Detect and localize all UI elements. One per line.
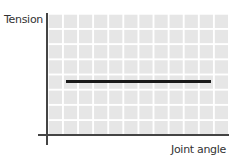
x-axis-label: Joint angle xyxy=(171,143,226,156)
y-axis-label: Tension xyxy=(4,13,43,26)
tension-line xyxy=(66,80,211,83)
x-axis-line xyxy=(38,134,229,136)
plot-area-grid xyxy=(48,13,229,135)
y-axis-line xyxy=(46,13,48,145)
